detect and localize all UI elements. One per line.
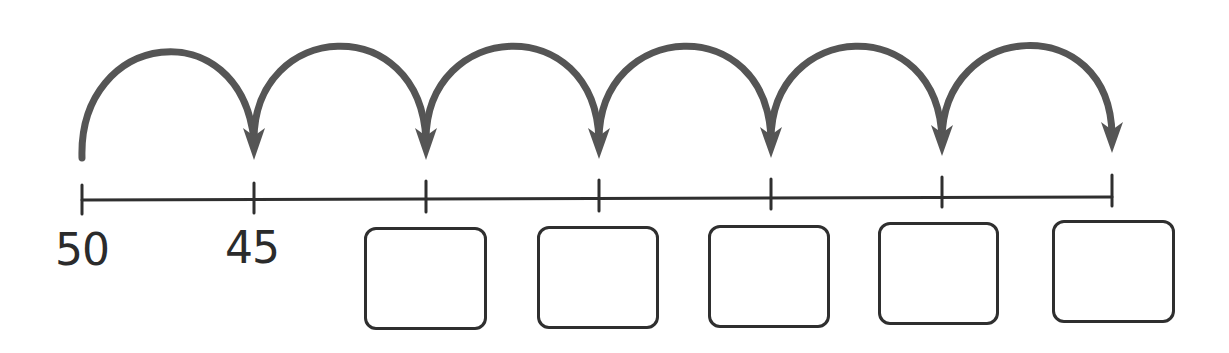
jump-arrow-6 <box>942 46 1112 140</box>
number-line <box>82 175 1112 214</box>
answer-box-4[interactable] <box>878 222 999 325</box>
jump-arrow-5 <box>771 46 942 140</box>
tick-label-45: 45 <box>225 226 279 270</box>
answer-box-3[interactable] <box>708 225 830 328</box>
jump-arrow-2 <box>254 46 426 140</box>
answer-box-1[interactable] <box>364 227 487 330</box>
jump-arrow-1 <box>82 52 254 158</box>
arrowheads <box>243 122 1123 160</box>
answer-box-5[interactable] <box>1052 220 1175 323</box>
jump-arrow-3 <box>426 46 599 140</box>
tick-label-50: 50 <box>55 228 109 272</box>
answer-box-2[interactable] <box>537 226 659 329</box>
jump-arrow-4 <box>599 46 771 140</box>
